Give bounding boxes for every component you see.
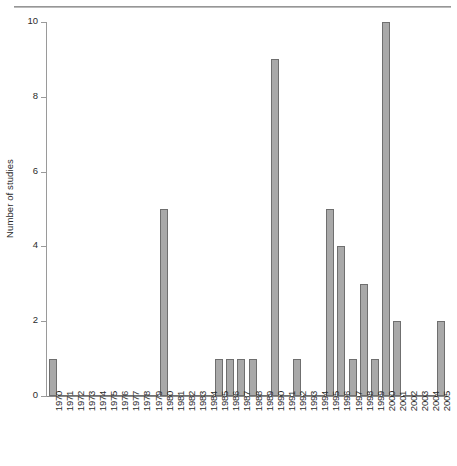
x-tick-label: 2005 <box>441 391 452 411</box>
bar-slot <box>114 22 125 396</box>
x-tick-slot: 1982 <box>180 399 191 461</box>
bar[interactable] <box>271 59 279 396</box>
bar[interactable] <box>437 321 445 396</box>
x-tick-slot: 1977 <box>125 399 136 461</box>
bar-slot <box>125 22 136 396</box>
bar-slot <box>203 22 214 396</box>
bar[interactable] <box>160 209 168 396</box>
bar-slot <box>80 22 91 396</box>
x-tick-slot: 1987 <box>236 399 247 461</box>
bar-slot <box>147 22 158 396</box>
x-tick-slot: 1992 <box>291 399 302 461</box>
y-tick-mark <box>41 22 46 23</box>
y-tick-mark <box>41 246 46 247</box>
bar[interactable] <box>393 321 401 396</box>
x-axis-tick-labels: 1970197119721973197419751976197719781979… <box>47 399 447 461</box>
x-tick-slot: 1979 <box>147 399 158 461</box>
y-tick-mark <box>41 172 46 173</box>
bar-slot <box>214 22 225 396</box>
bar-slot <box>291 22 302 396</box>
bar-slot <box>269 22 280 396</box>
y-tick-label: 2 <box>33 314 38 325</box>
bar-slot <box>436 22 447 396</box>
y-tick-label: 6 <box>33 165 38 176</box>
bar-slot <box>236 22 247 396</box>
bar-slot <box>358 22 369 396</box>
x-tick-slot: 1988 <box>247 399 258 461</box>
y-tick-mark <box>41 321 46 322</box>
x-tick-slot: 2002 <box>403 399 414 461</box>
x-tick-slot: 2004 <box>425 399 436 461</box>
x-tick-slot: 2001 <box>391 399 402 461</box>
bar-slot <box>158 22 169 396</box>
bar-slot <box>403 22 414 396</box>
y-tick-mark <box>41 396 46 397</box>
x-tick-slot: 1994 <box>314 399 325 461</box>
x-tick-slot: 2003 <box>414 399 425 461</box>
x-tick-slot: 1991 <box>280 399 291 461</box>
x-tick-slot: 2005 <box>436 399 447 461</box>
x-tick-slot: 1993 <box>303 399 314 461</box>
y-axis-title: Number of studies <box>2 0 16 396</box>
x-tick-slot: 1976 <box>114 399 125 461</box>
x-tick-slot: 1983 <box>191 399 202 461</box>
bar-slot <box>47 22 58 396</box>
bar-slot <box>391 22 402 396</box>
bar-slot <box>369 22 380 396</box>
x-tick-slot: 1989 <box>258 399 269 461</box>
x-tick-slot: 1972 <box>69 399 80 461</box>
bar-slot <box>303 22 314 396</box>
y-tick-label: 0 <box>33 389 38 400</box>
bar-slot <box>414 22 425 396</box>
bar-slot <box>336 22 347 396</box>
bar-slot <box>425 22 436 396</box>
bar-slot <box>325 22 336 396</box>
x-tick-slot: 1980 <box>158 399 169 461</box>
top-divider-rule <box>14 6 451 8</box>
x-tick-slot: 1978 <box>136 399 147 461</box>
bar[interactable] <box>326 209 334 396</box>
y-axis-title-text: Number of studies <box>4 159 15 238</box>
y-tick-mark <box>41 97 46 98</box>
bar-slot <box>314 22 325 396</box>
bar-slot <box>58 22 69 396</box>
x-tick-slot: 1986 <box>225 399 236 461</box>
figure: Number of studies 0246810 19701971197219… <box>0 0 457 466</box>
bar-slot <box>258 22 269 396</box>
bar-slot <box>69 22 80 396</box>
bar-slot <box>136 22 147 396</box>
y-tick-label: 4 <box>33 239 38 250</box>
y-tick-label: 10 <box>27 15 38 26</box>
x-tick-slot: 1985 <box>214 399 225 461</box>
bar-slot <box>280 22 291 396</box>
bar-slot <box>103 22 114 396</box>
bar-slot <box>180 22 191 396</box>
bar-slot <box>169 22 180 396</box>
bar-slot <box>380 22 391 396</box>
x-tick-slot: 1973 <box>80 399 91 461</box>
bar[interactable] <box>382 22 390 396</box>
x-tick-slot: 1995 <box>325 399 336 461</box>
bar-slot <box>247 22 258 396</box>
plot-area: 0246810 <box>47 22 447 396</box>
bar[interactable] <box>360 284 368 396</box>
y-tick-label: 8 <box>33 90 38 101</box>
bar-slot <box>347 22 358 396</box>
x-tick-slot: 1996 <box>336 399 347 461</box>
x-tick-slot: 1974 <box>91 399 102 461</box>
x-tick-slot: 1984 <box>203 399 214 461</box>
x-tick-slot: 1975 <box>103 399 114 461</box>
x-tick-slot: 1997 <box>347 399 358 461</box>
x-tick-slot: 1999 <box>369 399 380 461</box>
bar-slot <box>191 22 202 396</box>
bar-slot <box>91 22 102 396</box>
x-tick-slot: 1990 <box>269 399 280 461</box>
bar[interactable] <box>337 246 345 396</box>
bar-series <box>47 22 447 396</box>
x-tick-slot: 2000 <box>380 399 391 461</box>
x-tick-slot: 1970 <box>47 399 58 461</box>
bar-slot <box>225 22 236 396</box>
x-tick-slot: 1981 <box>169 399 180 461</box>
x-tick-slot: 1998 <box>358 399 369 461</box>
x-tick-slot: 1971 <box>58 399 69 461</box>
